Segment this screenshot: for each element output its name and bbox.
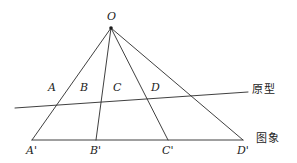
image-point-label-Bprime: B' — [90, 145, 101, 156]
image-point-label-Cprime: C' — [162, 145, 173, 156]
prototype-point-label-A: A — [48, 82, 56, 93]
prototype-point-label-D: D — [151, 82, 160, 93]
ray-OD — [111, 28, 243, 140]
prototype-point-label-C: C — [113, 82, 121, 93]
projection-rays-group — [32, 28, 243, 140]
ray-OA — [32, 28, 111, 140]
prototype-oblique-line — [15, 92, 248, 108]
apex-point-dot — [109, 26, 113, 30]
ray-OB — [96, 28, 111, 140]
image-point-label-Aprime: A' — [26, 145, 37, 156]
prototype-point-label-B: B — [80, 82, 88, 93]
apex-label-O: O — [107, 11, 116, 22]
image-point-label-Dprime: D' — [237, 145, 249, 156]
diagram-canvas — [0, 0, 297, 163]
prototype-line-annotation: 原型 — [252, 84, 276, 95]
image-line-annotation: 图象 — [256, 133, 280, 144]
projection-diagram-figure: O 原型 图象 ABCD A'B'C'D' — [0, 0, 297, 163]
